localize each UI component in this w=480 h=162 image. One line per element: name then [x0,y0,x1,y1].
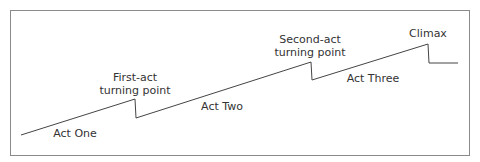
label-second-act-line1: Second-act [274,33,345,46]
label-first-act-line2: turning point [99,84,170,97]
label-first-act-line1: First-act [99,71,170,84]
label-climax: Climax [409,27,447,40]
label-act-one: Act One [53,127,97,140]
label-act-two: Act Two [201,100,243,113]
label-first-act-turning-point: First-act turning point [99,71,170,97]
label-second-act-line2: turning point [274,46,345,59]
label-act-three: Act Three [347,72,400,85]
label-second-act-turning-point: Second-act turning point [274,33,345,59]
